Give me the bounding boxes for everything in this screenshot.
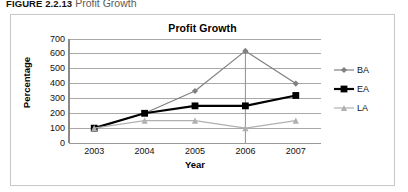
- legend-label: LA: [357, 103, 368, 113]
- y-tick-label: 300: [35, 94, 65, 103]
- y-tick-label: 200: [35, 109, 65, 118]
- data-point-marker: [242, 102, 249, 109]
- triangle-marker: [333, 101, 355, 115]
- square-marker: [333, 82, 355, 96]
- y-tick-label: 100: [35, 124, 65, 133]
- x-axis-title: Year: [69, 159, 321, 170]
- legend-label: EA: [357, 84, 369, 94]
- y-tick-label: 700: [35, 35, 65, 44]
- y-tick-label: 500: [35, 64, 65, 73]
- figure-caption: FIGURE 2.2.13Profit Growth: [6, 0, 137, 11]
- y-axis-tick-labels: 0100200300400500600700: [35, 39, 65, 143]
- figure-label: FIGURE 2.2.13: [6, 0, 72, 9]
- chart-frame: Profit Growth Percentage 010020030040050…: [10, 14, 395, 186]
- y-tick-label: 400: [35, 79, 65, 88]
- plot-area: [69, 39, 321, 143]
- chart-legend: BAEALA: [333, 60, 391, 117]
- plot-svg: [69, 39, 321, 143]
- y-tick-label: 600: [35, 49, 65, 58]
- chart-title: Profit Growth: [11, 22, 394, 34]
- diamond-marker: [333, 63, 355, 77]
- y-axis-title: Percentage: [21, 48, 32, 118]
- data-point-marker: [192, 102, 199, 109]
- legend-item-ea[interactable]: EA: [333, 79, 391, 98]
- legend-item-ba[interactable]: BA: [333, 60, 391, 79]
- x-tick-label: 2005: [170, 146, 220, 156]
- data-point-marker: [292, 92, 299, 99]
- y-tick-label: 0: [35, 139, 65, 148]
- data-point-marker: [141, 110, 148, 117]
- legend-item-la[interactable]: LA: [333, 98, 391, 117]
- data-point-marker: [293, 80, 299, 86]
- x-tick-label: 2003: [69, 146, 119, 156]
- x-tick-label: 2006: [220, 146, 270, 156]
- x-axis-tick-labels: 20032004200520062007: [69, 146, 321, 160]
- x-tick-label: 2007: [271, 146, 321, 156]
- figure-caption-text: Profit Growth: [75, 0, 136, 9]
- x-tick-label: 2004: [120, 146, 170, 156]
- legend-label: BA: [357, 65, 369, 75]
